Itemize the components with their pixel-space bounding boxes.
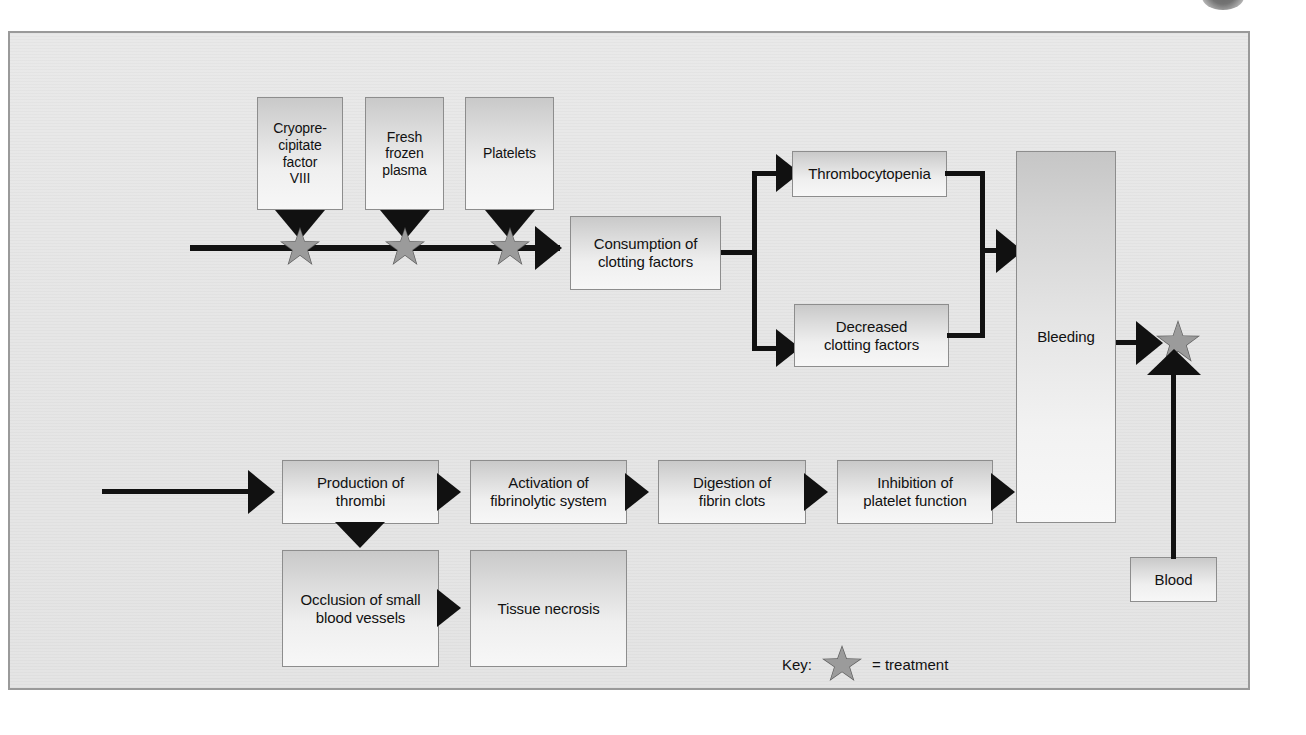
legend-key-label: Key: bbox=[782, 656, 812, 673]
merge-vertical-to-bleeding bbox=[980, 171, 985, 338]
scanned-page: Cryopre- cipitate factor VIII Fresh froz… bbox=[0, 0, 1306, 735]
consumption-split-vertical bbox=[752, 171, 757, 351]
node-decreased-clotting-factors: Decreased clotting factors bbox=[794, 304, 949, 367]
arrow-activation-to-digestion bbox=[625, 473, 649, 511]
thrombocytopenia-merge-line bbox=[945, 171, 985, 176]
node-consumption-label: Consumption of clotting factors bbox=[594, 235, 698, 270]
node-platelets-label: Platelets bbox=[483, 145, 536, 162]
node-production-of-thrombi: Production of thrombi bbox=[282, 460, 439, 524]
legend-star-wrap bbox=[822, 645, 862, 683]
blood-to-treatment-vertical bbox=[1171, 375, 1176, 559]
node-occlusion-vessels-label: Occlusion of small blood vessels bbox=[301, 591, 421, 626]
arrow-into-consumption bbox=[535, 226, 562, 270]
treatment-star-cryoprecipitate bbox=[280, 227, 320, 267]
legend-star-holder bbox=[822, 645, 862, 683]
node-occlusion-of-small-blood-vessels: Occlusion of small blood vessels bbox=[282, 550, 439, 667]
node-fresh-frozen-plasma: Fresh frozen plasma bbox=[365, 97, 444, 210]
arrow-inhibition-to-bleeding bbox=[991, 473, 1015, 511]
treatment-star-plasma bbox=[385, 227, 425, 267]
node-platelets: Platelets bbox=[465, 97, 554, 210]
node-production-thrombi-label: Production of thrombi bbox=[317, 474, 404, 509]
node-thrombocytopenia-label: Thrombocytopenia bbox=[808, 165, 931, 183]
node-fresh-frozen-plasma-label: Fresh frozen plasma bbox=[382, 129, 427, 179]
diagram-frame: Cryopre- cipitate factor VIII Fresh froz… bbox=[8, 31, 1250, 690]
node-bleeding: Bleeding bbox=[1016, 151, 1116, 523]
legend-key: Key: = treatment bbox=[782, 645, 948, 683]
arrow-occlusion-to-necrosis bbox=[437, 589, 461, 627]
treatment-star-platelets bbox=[490, 227, 530, 267]
arrow-into-production-thrombi bbox=[248, 470, 275, 514]
node-thrombocytopenia: Thrombocytopenia bbox=[792, 151, 947, 197]
node-blood-label: Blood bbox=[1155, 571, 1193, 589]
arrow-blood-up-to-treatment bbox=[1147, 349, 1201, 375]
node-digestion-fibrin-label: Digestion of fibrin clots bbox=[693, 474, 771, 509]
node-bleeding-label: Bleeding bbox=[1037, 328, 1095, 346]
node-blood: Blood bbox=[1130, 557, 1217, 602]
node-activation-fibrinolytic-label: Activation of fibrinolytic system bbox=[490, 474, 606, 509]
diagram-canvas: Cryopre- cipitate factor VIII Fresh froz… bbox=[10, 33, 1248, 688]
arrow-production-to-activation bbox=[437, 473, 461, 511]
node-tissue-necrosis: Tissue necrosis bbox=[470, 550, 627, 667]
node-cryoprecipitate: Cryopre- cipitate factor VIII bbox=[257, 97, 343, 210]
node-decreased-clotting-label: Decreased clotting factors bbox=[824, 318, 919, 353]
arrow-production-to-occlusion bbox=[335, 522, 385, 548]
node-cryoprecipitate-label: Cryopre- cipitate factor VIII bbox=[273, 120, 327, 186]
node-activation-of-fibrinolytic-system: Activation of fibrinolytic system bbox=[470, 460, 627, 524]
scan-artifact-thumb bbox=[1202, 0, 1244, 10]
legend-key-equals-text: = treatment bbox=[872, 656, 948, 673]
node-digestion-of-fibrin-clots: Digestion of fibrin clots bbox=[658, 460, 806, 524]
arrow-digestion-to-inhibition bbox=[804, 473, 828, 511]
node-inhibition-platelet-label: Inhibition of platelet function bbox=[863, 474, 966, 509]
node-inhibition-of-platelet-function: Inhibition of platelet function bbox=[837, 460, 993, 524]
lower-pathway-entry-line bbox=[102, 489, 250, 494]
node-consumption-of-clotting-factors: Consumption of clotting factors bbox=[570, 216, 721, 290]
node-tissue-necrosis-label: Tissue necrosis bbox=[497, 600, 599, 618]
